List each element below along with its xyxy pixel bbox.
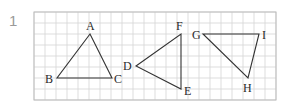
vertex-label-c: C bbox=[114, 72, 122, 86]
vertex-label-e: E bbox=[184, 84, 191, 98]
vertex-label-h: H bbox=[243, 81, 252, 95]
vertex-label-b: B bbox=[45, 72, 53, 86]
vertex-label-g: G bbox=[192, 28, 201, 42]
vertex-label-a: A bbox=[86, 19, 95, 33]
triangle-grid-figure: ABCDFEGIH bbox=[0, 0, 289, 112]
vertex-label-f: F bbox=[176, 19, 183, 33]
triangle-def bbox=[136, 34, 181, 89]
vertex-label-i: I bbox=[262, 28, 266, 42]
vertex-label-d: D bbox=[123, 59, 132, 73]
